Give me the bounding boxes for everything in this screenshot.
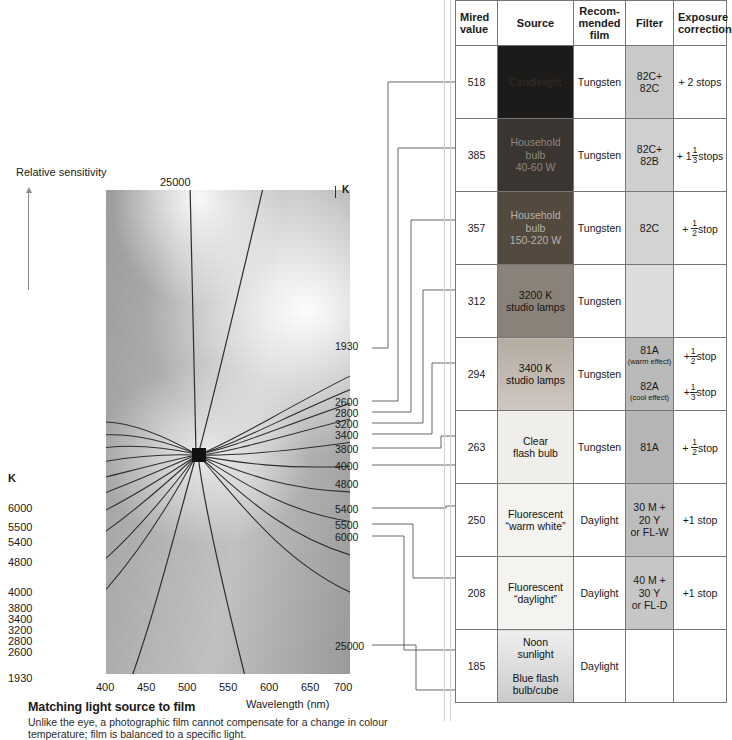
cell-source-208: Fluorescent “daylight” xyxy=(498,557,574,630)
kelvin-scale-tick-mark xyxy=(335,186,336,198)
k-left-tick-5500: 5500 xyxy=(8,521,32,533)
cell-source-294: 3400 K studio lamps xyxy=(498,338,574,411)
source-line3: 40-60 W xyxy=(498,161,573,174)
cell-mired-357: 357 xyxy=(456,192,498,265)
source-line1: 3200 K xyxy=(498,289,573,302)
source-line3: 150-220 W xyxy=(498,234,573,247)
k-center-tick-5500: 5500 xyxy=(335,519,358,531)
cell-mired-250: 250 xyxy=(456,484,498,557)
table-row: 385 Household bulb 40-60 W Tungsten 82C+… xyxy=(456,119,727,192)
filter-warm-label: 81A xyxy=(640,344,659,357)
cell-filter-312 xyxy=(626,265,674,338)
table-row: 312 3200 K studio lamps Tungsten xyxy=(456,265,727,338)
source-line1: 3400 K xyxy=(498,362,573,375)
kelvin-scale-column: K 1930 2600 2800 3200 3400 3800 4000 480… xyxy=(332,0,390,700)
exposure-fraction: 12 xyxy=(691,219,698,237)
cell-filter-518: 82C+ 82C xyxy=(626,46,674,119)
table-row: 185 Noon sunlight Blue flash bulb/cube D… xyxy=(456,630,727,703)
k-left-tick-6000: 6000 xyxy=(8,502,32,514)
k-center-tick-5400: 5400 xyxy=(335,503,358,515)
chart-y-axis-arrow xyxy=(28,192,29,290)
cell-filter-385: 82C+ 82B xyxy=(626,119,674,192)
filter-line3: or FL-W xyxy=(626,526,673,539)
exposure-fraction: 13 xyxy=(690,383,697,401)
cell-exposure-518: + 2 stops xyxy=(674,46,727,119)
filter-cool-label: 82A xyxy=(640,380,659,393)
chart-left-axis-title: K xyxy=(8,472,16,484)
cell-source-357: Household bulb 150-220 W xyxy=(498,192,574,265)
exposure-prefix: + xyxy=(682,442,691,454)
cell-exposure-312 xyxy=(674,265,727,338)
table-row: 294 3400 K studio lamps Tungsten 81A (wa… xyxy=(456,338,727,411)
kelvin-scale-title: K xyxy=(342,184,349,195)
exposure-suffix: stop xyxy=(698,223,718,235)
table-body: 518 Candlelight Tungsten 82C+ 82C + 2 st… xyxy=(456,46,727,703)
source-line2: studio lamps xyxy=(498,374,573,387)
chart-curves xyxy=(106,190,350,674)
cell-filter-263: 81A xyxy=(626,411,674,484)
table-row: 208 Fluorescent “daylight” Daylight 40 M… xyxy=(456,557,727,630)
table-row: 250 Fluorescent “warm white” Daylight 30… xyxy=(456,484,727,557)
cell-film-385: Tungsten xyxy=(574,119,626,192)
source-line1: Fluorescent xyxy=(498,581,573,594)
source-line1: Fluorescent xyxy=(498,508,573,521)
source-line4: bulb/cube xyxy=(498,684,573,697)
cell-source-518: Candlelight xyxy=(498,46,574,119)
cell-mired-185: 185 xyxy=(456,630,498,703)
header-exposure-line1: Exposure xyxy=(678,11,726,23)
source-line2: flash bulb xyxy=(498,447,573,460)
exposure-fraction: 12 xyxy=(690,347,697,365)
header-exposure-correction: Exposure correction xyxy=(674,1,727,46)
cell-source-263: Clear flash bulb xyxy=(498,411,574,484)
exposure-suffix: stops xyxy=(698,150,723,162)
cell-film-357: Tungsten xyxy=(574,192,626,265)
chart-y-axis-label: Relative sensitivity xyxy=(16,166,106,179)
k-center-tick-3800: 3800 xyxy=(335,443,358,455)
header-mired-line1: Mired xyxy=(460,11,497,23)
filter-line1: 82C+ xyxy=(626,143,673,156)
table-header-row: Mired value Source Recom- mended film Fi… xyxy=(456,1,727,46)
k-center-tick-4000: 4000 xyxy=(335,460,358,472)
exposure-warm: + 12stop xyxy=(674,338,726,374)
cell-mired-208: 208 xyxy=(456,557,498,630)
filter-line2: 82C xyxy=(626,82,673,95)
table-row: 518 Candlelight Tungsten 82C+ 82C + 2 st… xyxy=(456,46,727,119)
source-line1: Household xyxy=(498,209,573,222)
cell-film-263: Tungsten xyxy=(574,411,626,484)
cell-source-250: Fluorescent “warm white” xyxy=(498,484,574,557)
k-left-tick-4000: 4000 xyxy=(8,586,32,598)
source-line2: bulb xyxy=(498,149,573,162)
filter-line2: 30 Y xyxy=(626,587,673,600)
x-tick-500: 500 xyxy=(178,681,196,693)
x-tick-600: 600 xyxy=(260,681,278,693)
header-filter: Filter xyxy=(626,1,674,46)
cell-mired-294: 294 xyxy=(456,338,498,411)
source-line3: Blue flash xyxy=(498,672,573,685)
k-center-tick-3400: 3400 xyxy=(335,429,358,441)
source-blue-flash: Blue flash bulb/cube xyxy=(498,672,573,697)
light-source-film-table: Mired value Source Recom- mended film Fi… xyxy=(455,0,727,703)
cell-film-518: Tungsten xyxy=(574,46,626,119)
filter-split-294: 81A (warm effect) 82A (cool effect) xyxy=(626,338,673,410)
filter-warm-note: (warm effect) xyxy=(628,356,672,369)
source-line2: bulb xyxy=(498,222,573,235)
exposure-prefix: + xyxy=(682,223,691,235)
source-stack-185: Noon sunlight Blue flash bulb/cube xyxy=(498,630,573,702)
source-line1: Noon xyxy=(498,636,573,649)
chart-y-axis-label-text: Relative sensitivity xyxy=(16,166,106,178)
cell-source-312: 3200 K studio lamps xyxy=(498,265,574,338)
exposure-prefix: + 1 xyxy=(677,150,692,162)
header-film-line3: film xyxy=(574,29,625,41)
filter-line1: 82C+ xyxy=(626,70,673,83)
filter-line1: 82C xyxy=(626,222,673,235)
table-header: Mired value Source Recom- mended film Fi… xyxy=(456,1,727,46)
k-center-tick-25000: 25000 xyxy=(335,640,364,652)
header-source: Source xyxy=(498,1,574,46)
filter-option-cool: 82A (cool effect) xyxy=(626,374,673,410)
x-tick-400: 400 xyxy=(96,681,114,693)
cell-film-294: Tungsten xyxy=(574,338,626,411)
exposure-cool: + 13stop xyxy=(674,374,726,410)
x-tick-650: 650 xyxy=(301,681,319,693)
k-left-tick-5400: 5400 xyxy=(8,536,32,548)
k-left-tick-1930: 1930 xyxy=(8,672,32,684)
